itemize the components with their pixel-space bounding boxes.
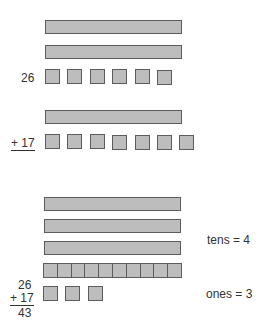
ten-rod-sum-2 — [44, 219, 181, 233]
tens-count-label: tens = 4 — [207, 234, 250, 246]
regrouped-unit — [127, 264, 141, 277]
equation-sum: 43 — [18, 307, 31, 319]
regrouped-unit — [85, 264, 99, 277]
unit-cube-26-5 — [135, 69, 150, 84]
regrouped-ten-rod — [43, 263, 182, 278]
ten-rod-26-1 — [45, 20, 182, 34]
unit-cube-26-6 — [157, 70, 172, 85]
unit-cube-17-4 — [112, 135, 127, 150]
ten-rod-sum-3 — [44, 241, 181, 255]
equation-top: 26 — [18, 279, 31, 291]
unit-cube-17-1 — [45, 134, 60, 149]
regrouped-unit — [113, 264, 127, 277]
unit-cube-17-6 — [157, 135, 172, 150]
ten-rod-17-1 — [45, 110, 182, 124]
unit-cube-26-4 — [112, 69, 127, 84]
regrouped-unit — [44, 264, 58, 277]
regrouped-unit — [72, 264, 86, 277]
ones-count-label: ones = 3 — [206, 288, 252, 300]
regrouped-unit — [141, 264, 155, 277]
unit-cube-sum-2 — [65, 286, 80, 301]
unit-cube-17-7 — [179, 135, 194, 150]
unit-cube-26-2 — [67, 69, 82, 84]
addend1-label: 26 — [21, 72, 34, 84]
equation-second: + 17 — [10, 292, 34, 306]
ten-rod-sum-1 — [44, 197, 181, 211]
regrouped-unit — [154, 264, 168, 277]
unit-cube-26-3 — [90, 69, 105, 84]
regrouped-unit — [168, 264, 181, 277]
addend2-label: + 17 — [11, 137, 35, 151]
regrouped-unit — [58, 264, 72, 277]
unit-cube-17-3 — [90, 134, 105, 149]
unit-cube-17-2 — [67, 134, 82, 149]
unit-cube-26-1 — [45, 69, 60, 84]
unit-cube-17-5 — [135, 135, 150, 150]
unit-cube-sum-1 — [43, 286, 58, 301]
unit-cube-sum-3 — [88, 286, 103, 301]
ten-rod-26-2 — [45, 45, 182, 59]
regrouped-unit — [99, 264, 113, 277]
